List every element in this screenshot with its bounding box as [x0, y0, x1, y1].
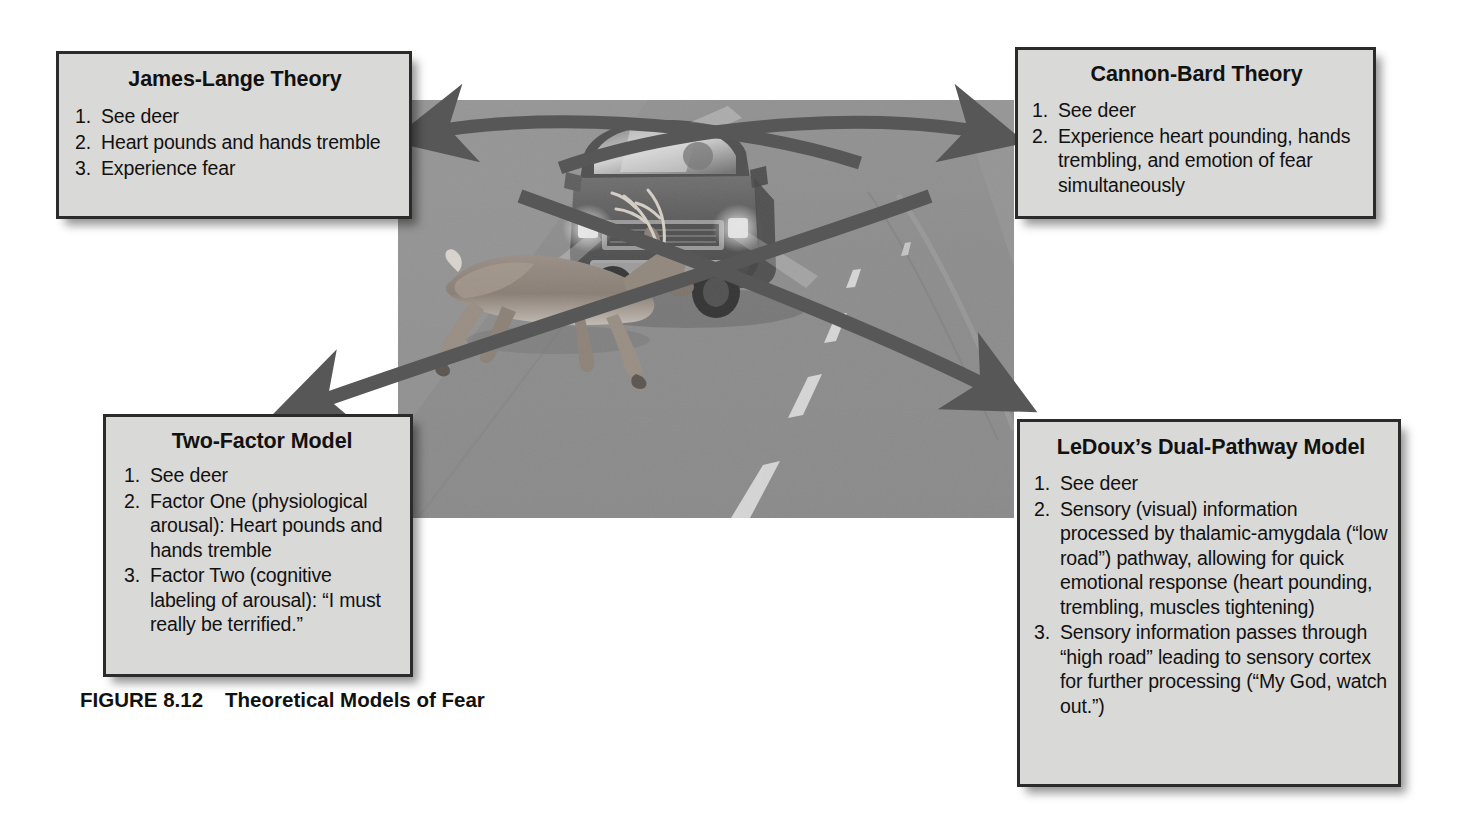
list-text: Heart pounds and hands tremble — [101, 131, 381, 153]
box-two-factor-model: Two-Factor Model 1.See deer 2.Factor One… — [103, 414, 413, 677]
box-title-cannon-bard: Cannon-Bard Theory — [1032, 62, 1361, 87]
list-item: 2.Factor One (physiological arousal): He… — [124, 489, 400, 563]
list-item: 1.See deer — [75, 104, 395, 129]
list-text: See deer — [150, 464, 228, 486]
figure-caption-title: Theoretical Models of Fear — [225, 688, 485, 711]
list-number: 1. — [1032, 98, 1052, 123]
scene-photo-deer-and-truck — [398, 100, 1014, 518]
list-item: 1.See deer — [1032, 98, 1361, 123]
box-title-james-lange: James-Lange Theory — [75, 67, 395, 92]
list-item: 2.Heart pounds and hands tremble — [75, 130, 395, 155]
list-item: 2.Sensory (visual) information processed… — [1034, 497, 1388, 620]
list-number: 1. — [124, 463, 144, 488]
list-item: 3.Sensory information passes through “hi… — [1034, 620, 1388, 718]
list-number: 1. — [1034, 471, 1054, 496]
figure-caption-label: FIGURE 8.12 — [80, 688, 203, 711]
list-item: 3.Experience fear — [75, 156, 395, 181]
list-text: See deer — [1060, 472, 1138, 494]
list-number: 3. — [124, 563, 144, 588]
list-text: Experience heart pounding, hands trembli… — [1058, 125, 1350, 196]
box-list-ledoux: 1.See deer 2.Sensory (visual) informatio… — [1034, 471, 1388, 718]
list-item: 3.Factor Two (cognitive labeling of arou… — [124, 563, 400, 637]
list-item: 1.See deer — [124, 463, 400, 488]
box-james-lange-theory: James-Lange Theory 1.See deer 2.Heart po… — [56, 51, 412, 219]
list-text: Sensory information passes through “high… — [1060, 621, 1387, 717]
list-number: 2. — [1032, 124, 1052, 149]
list-item: 1.See deer — [1034, 471, 1388, 496]
list-text: See deer — [101, 105, 179, 127]
list-text: See deer — [1058, 99, 1136, 121]
list-number: 3. — [75, 156, 95, 181]
list-number: 3. — [1034, 620, 1054, 645]
box-title-ledoux: LeDoux’s Dual-Pathway Model — [1034, 435, 1388, 460]
list-number: 2. — [1034, 497, 1054, 522]
box-list-cannon-bard: 1.See deer 2.Experience heart pounding, … — [1032, 98, 1361, 197]
list-number: 1. — [75, 104, 95, 129]
box-ledoux-dual-pathway-model: LeDoux’s Dual-Pathway Model 1.See deer 2… — [1017, 419, 1401, 787]
box-cannon-bard-theory: Cannon-Bard Theory 1.See deer 2.Experien… — [1015, 47, 1376, 219]
box-list-two-factor: 1.See deer 2.Factor One (physiological a… — [124, 463, 400, 637]
list-text: Experience fear — [101, 157, 235, 179]
figure-theoretical-models-of-fear: James-Lange Theory 1.See deer 2.Heart po… — [0, 0, 1460, 823]
box-list-james-lange: 1.See deer 2.Heart pounds and hands trem… — [75, 104, 395, 181]
list-number: 2. — [124, 489, 144, 514]
list-item: 2.Experience heart pounding, hands tremb… — [1032, 124, 1361, 198]
box-title-two-factor: Two-Factor Model — [124, 429, 400, 454]
list-text: Sensory (visual) information processed b… — [1060, 498, 1387, 618]
list-number: 2. — [75, 130, 95, 155]
list-text: Factor One (physiological arousal): Hear… — [150, 490, 382, 561]
list-text: Factor Two (cognitive labeling of arousa… — [150, 564, 381, 635]
figure-caption: FIGURE 8.12Theoretical Models of Fear — [80, 688, 485, 712]
